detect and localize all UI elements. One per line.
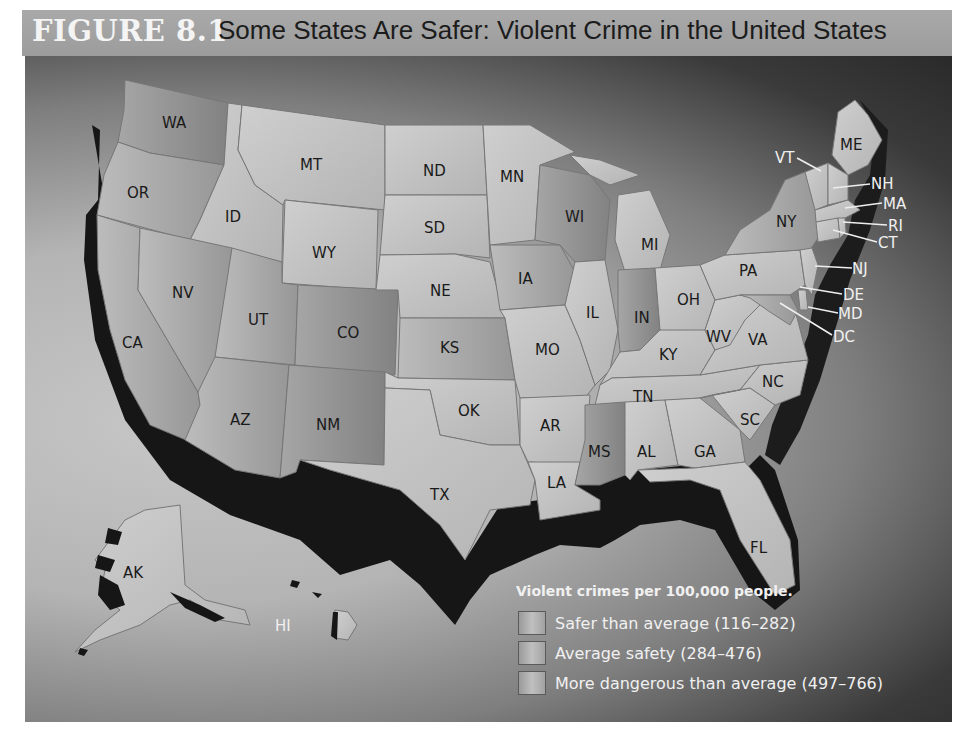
label-WV: WV xyxy=(706,328,732,346)
legend-title: Violent crimes per 100,000 people. xyxy=(516,583,883,599)
label-SC: SC xyxy=(740,411,760,429)
legend-label-safer: Safer than average (116–282) xyxy=(555,614,796,633)
label-HI: HI xyxy=(275,617,291,635)
label-TX: TX xyxy=(429,486,449,504)
legend-swatch-dangerous xyxy=(518,671,546,695)
label-MT: MT xyxy=(300,156,323,174)
label-AR: AR xyxy=(540,417,561,435)
legend-swatch-safer xyxy=(518,611,546,635)
label-WY: WY xyxy=(312,244,337,262)
label-GA: GA xyxy=(694,443,717,461)
legend-item-dangerous: More dangerous than average (497–766) xyxy=(508,668,883,698)
label-IA: IA xyxy=(518,270,533,288)
state-CT xyxy=(816,218,840,242)
label-CA: CA xyxy=(122,334,143,352)
label-KY: KY xyxy=(659,346,678,364)
hi-shadow xyxy=(290,580,338,640)
label-WI: WI xyxy=(565,208,584,226)
label-LA: LA xyxy=(547,474,567,492)
label-NJ: NJ xyxy=(852,260,868,278)
label-VT: VT xyxy=(775,149,795,167)
figure-number: FIGURE 8.1 xyxy=(32,14,228,48)
label-MS: MS xyxy=(588,443,610,461)
figure-title: Some States Are Safer: Violent Crime in … xyxy=(218,15,887,46)
legend-item-average: Average safety (284–476) xyxy=(508,638,883,668)
label-OH: OH xyxy=(677,291,700,309)
label-TN: TN xyxy=(632,388,653,406)
label-IN: IN xyxy=(634,309,650,327)
figure-header: FIGURE 8.1 Some States Are Safer: Violen… xyxy=(22,10,952,56)
label-VA: VA xyxy=(748,331,768,349)
label-AZ: AZ xyxy=(230,411,251,429)
state-MI xyxy=(615,190,670,272)
label-FL: FL xyxy=(750,539,768,557)
label-DC: DC xyxy=(833,328,855,346)
label-NY: NY xyxy=(776,213,797,231)
label-SD: SD xyxy=(424,219,445,237)
label-MI: MI xyxy=(641,236,658,254)
state-DE xyxy=(798,290,808,310)
label-MA: MA xyxy=(883,195,907,213)
label-OR: OR xyxy=(127,184,149,202)
label-NC: NC xyxy=(762,373,784,391)
state-ND xyxy=(385,125,487,195)
label-IL: IL xyxy=(586,304,599,322)
state-HI xyxy=(335,610,357,640)
label-NM: NM xyxy=(316,416,340,434)
label-NH: NH xyxy=(871,175,894,193)
label-PA: PA xyxy=(739,262,758,280)
label-ID: ID xyxy=(225,208,241,226)
label-CT: CT xyxy=(878,234,898,252)
state-RI xyxy=(838,218,846,238)
label-ME: ME xyxy=(840,136,862,154)
label-ND: ND xyxy=(423,162,446,180)
label-RI: RI xyxy=(888,217,903,235)
legend: Violent crimes per 100,000 people. Safer… xyxy=(508,583,883,698)
label-WA: WA xyxy=(162,114,187,132)
label-CO: CO xyxy=(337,324,359,342)
label-DE: DE xyxy=(843,286,864,304)
legend-swatch-average xyxy=(518,641,546,665)
label-AK: AK xyxy=(123,564,144,582)
legend-label-dangerous: More dangerous than average (497–766) xyxy=(555,674,883,693)
label-OK: OK xyxy=(458,402,481,420)
state-NY xyxy=(725,172,820,255)
label-MD: MD xyxy=(838,305,863,323)
legend-label-average: Average safety (284–476) xyxy=(555,644,762,663)
label-MO: MO xyxy=(535,341,560,359)
legend-item-safer: Safer than average (116–282) xyxy=(508,608,883,638)
label-AL: AL xyxy=(637,443,656,461)
label-KS: KS xyxy=(440,339,459,357)
label-NE: NE xyxy=(430,282,451,300)
label-NV: NV xyxy=(172,284,194,302)
label-UT: UT xyxy=(248,311,269,329)
us-map-panel: WA OR CA ID NV MT WY UT AZ CO NM ND SD N… xyxy=(25,56,952,722)
label-MN: MN xyxy=(500,168,524,186)
